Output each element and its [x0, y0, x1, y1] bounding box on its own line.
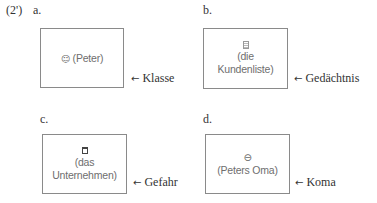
building-square-icon [82, 147, 88, 154]
panel-d-box: ⊖ (Peters Oma) [205, 134, 290, 194]
face-icon: ⊖ [243, 152, 251, 164]
panel-a-annotation: ←Klasse [131, 71, 174, 86]
left-arrow-icon: ← [131, 73, 139, 84]
panel-c-box: (das Unternehmen) [42, 134, 127, 194]
panel-c-label: c. [40, 112, 48, 127]
panel-a-content: ☺ (Peter) [61, 52, 104, 65]
panel-c-annotation: ←Gefahr [133, 175, 178, 190]
panel-b-annotation-text: Gedächtnis [305, 71, 359, 85]
panel-c-line-1: (das [75, 156, 95, 169]
panel-a-annotation-text: Klasse [142, 71, 174, 85]
left-arrow-icon: ← [294, 73, 302, 84]
smiley-face-icon: ☺ [61, 54, 70, 64]
panel-a-label: a. [33, 3, 41, 18]
panel-a-box: ☺ (Peter) [40, 28, 124, 88]
panel-d-annotation: ←Koma [295, 175, 336, 190]
example-number: (2') [6, 3, 22, 18]
panel-a-text: (Peter) [73, 52, 104, 64]
panel-b-box: (die Kundenliste) [203, 28, 288, 89]
left-arrow-icon: ← [295, 177, 303, 188]
panel-c-line-2: Unternehmen) [52, 169, 117, 182]
panel-b-line-2: Kundenliste) [218, 63, 274, 76]
panel-d-annotation-text: Koma [306, 175, 335, 189]
panel-b-label: b. [203, 3, 212, 18]
panel-d-label: d. [203, 112, 212, 127]
panel-b-annotation: ←Gedächtnis [294, 71, 359, 86]
panel-d-line-1: (Peters Oma) [217, 164, 278, 177]
panel-b-line-1: (die [237, 50, 254, 63]
document-icon [243, 41, 249, 49]
panel-c-annotation-text: Gefahr [144, 175, 177, 189]
left-arrow-icon: ← [133, 177, 141, 188]
example-number-text: (2') [6, 3, 22, 17]
